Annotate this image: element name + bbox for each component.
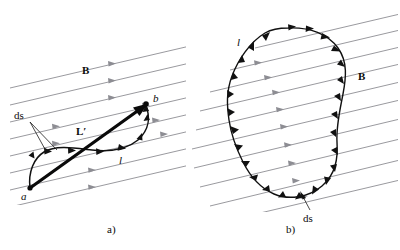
endpoint-a-dot	[27, 185, 32, 190]
field-label-b-panel-b: B	[358, 70, 366, 82]
loop-arrow	[331, 111, 338, 119]
path-label-l-panel-a: l	[119, 154, 122, 166]
field-lines-panel-b	[192, 14, 400, 222]
ds-label-panel-a: ds	[14, 109, 24, 121]
caption-panel-a: a)	[107, 223, 116, 236]
loop-arrow	[331, 147, 338, 155]
panel-a: B a b l ds L′ a)	[10, 46, 190, 236]
point-label-a: a	[21, 190, 27, 202]
loop-direction-arrows	[227, 24, 345, 199]
loop-arrow	[231, 72, 238, 80]
field-line	[10, 80, 190, 122]
physics-diagram-svg: B a b l ds L′ a)	[0, 0, 400, 250]
loop-arrow	[241, 161, 250, 167]
svg-text:ds: ds	[303, 212, 313, 224]
loop-arrow	[234, 144, 243, 151]
endpoint-b-dot	[143, 101, 149, 107]
field-label-b-panel-a: B	[82, 64, 90, 76]
closed-loop-curve	[227, 28, 345, 197]
path-direction-arrow	[29, 152, 35, 159]
field-line	[194, 119, 400, 168]
field-line	[10, 165, 190, 207]
path-direction-arrow	[137, 133, 143, 141]
field-line	[230, 30, 400, 70]
loop-arrow	[249, 175, 258, 182]
loop-arrow	[238, 55, 245, 63]
loop-label-l-panel-b: l	[237, 36, 240, 48]
field-line	[10, 63, 190, 105]
loop-arrow	[278, 191, 286, 198]
field-line	[196, 82, 400, 130]
loop-arrow	[248, 41, 254, 51]
field-line	[10, 46, 190, 88]
field-line	[210, 160, 400, 206]
field-line	[210, 47, 400, 92]
ds-label-s-panel-a: s	[20, 109, 24, 121]
svg-text:L′: L′	[76, 125, 86, 137]
displacement-label-panel-a: L′	[76, 125, 86, 137]
field-line	[200, 139, 400, 187]
panel-b: l B ds b)	[192, 14, 400, 236]
figure-container: B a b l ds L′ a)	[0, 0, 400, 250]
caption-panel-b: b)	[286, 223, 296, 236]
ds-label-panel-b: ds	[303, 212, 313, 224]
field-line	[192, 100, 400, 149]
loop-arrow	[227, 90, 234, 98]
point-label-b: b	[153, 92, 159, 104]
ds-label-s-panel-b: s	[309, 212, 313, 224]
path-direction-arrow	[96, 148, 104, 155]
loop-arrow	[312, 186, 319, 195]
svg-text:ds: ds	[14, 109, 24, 121]
field-line	[255, 14, 400, 48]
